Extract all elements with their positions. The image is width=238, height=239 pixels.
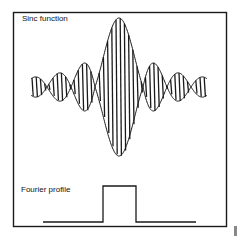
sinc-function-label: Sinc function — [22, 14, 68, 23]
sinc-carrier-lines — [32, 18, 205, 155]
fourier-profile-label: Fourier profile — [21, 185, 70, 194]
edge-mark — [234, 226, 237, 236]
diagram-figure — [0, 0, 238, 239]
